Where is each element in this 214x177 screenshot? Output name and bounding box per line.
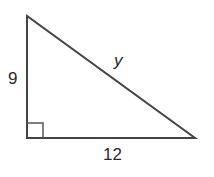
vertical-leg-label: 9 bbox=[8, 70, 17, 87]
right-angle-marker bbox=[27, 123, 43, 138]
horizontal-leg-label: 12 bbox=[103, 146, 122, 163]
hypotenuse-label: y bbox=[114, 52, 123, 69]
right-triangle bbox=[27, 16, 195, 138]
